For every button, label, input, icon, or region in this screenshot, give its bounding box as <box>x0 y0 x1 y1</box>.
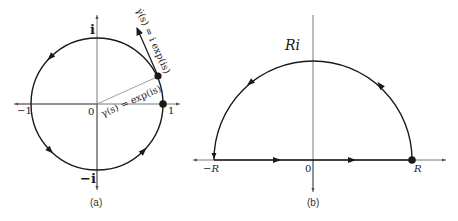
label-neg-one: −1 <box>17 105 32 116</box>
point-gamma-s <box>154 72 161 79</box>
arrow-icon <box>273 157 281 163</box>
label-neg-R: −R <box>203 163 219 174</box>
label-origin-a: 0 <box>88 106 94 117</box>
panel-b: Ri −R R 0 (b) <box>193 15 446 208</box>
panel-a: i −i −1 1 0 γ(s) = exp(is) γ̇(s) = i exp… <box>14 6 180 208</box>
label-origin-b: 0 <box>305 163 311 174</box>
caption-b: (b) <box>307 197 319 208</box>
arrow-icon <box>348 157 356 163</box>
caption-a: (a) <box>90 197 102 208</box>
label-one: 1 <box>168 105 174 116</box>
label-R: R <box>413 163 422 174</box>
label-neg-i: −i <box>80 171 96 186</box>
label-i: i <box>90 22 95 37</box>
label-Ri: Ri <box>284 37 300 53</box>
arrow-icon <box>212 153 217 159</box>
contour-diagram: i −i −1 1 0 γ(s) = exp(is) γ̇(s) = i exp… <box>0 0 458 221</box>
point-one <box>159 100 167 108</box>
label-gamma: γ(s) = exp(is) <box>99 83 162 119</box>
